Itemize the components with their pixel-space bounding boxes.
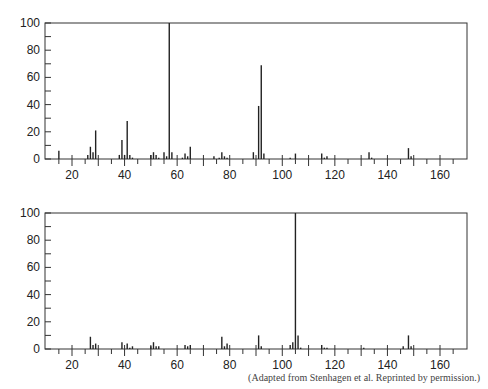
figure-credit: (Adapted from Stenhagen et al. Reprinted… [248, 372, 480, 383]
plot-frame [45, 23, 467, 159]
x-tick-label: 160 [430, 168, 450, 182]
x-tick-label: 60 [170, 168, 184, 182]
x-tick-label: 100 [272, 168, 292, 182]
y-tick-label: 80 [27, 43, 41, 57]
y-tick-label: 20 [27, 315, 41, 329]
plot-frame [45, 213, 467, 349]
y-tick-label: 100 [20, 16, 40, 30]
y-tick-label: 100 [20, 206, 40, 220]
x-tick-label: 20 [65, 358, 79, 372]
x-tick-label: 160 [430, 358, 450, 372]
top-spectrum-plot: 02040608010020406080100120140160 [20, 16, 467, 182]
x-tick-label: 40 [118, 358, 132, 372]
y-tick-label: 80 [27, 233, 41, 247]
x-tick-label: 120 [325, 168, 345, 182]
x-tick-label: 60 [170, 358, 184, 372]
x-tick-label: 20 [65, 168, 79, 182]
bottom-spectrum-plot: 02040608010020406080100120140160 [20, 206, 467, 372]
x-tick-label: 140 [377, 168, 397, 182]
y-tick-label: 0 [33, 342, 40, 356]
y-tick-label: 0 [33, 152, 40, 166]
x-tick-label: 80 [223, 358, 237, 372]
x-tick-label: 120 [325, 358, 345, 372]
y-tick-label: 60 [27, 260, 41, 274]
y-tick-label: 20 [27, 125, 41, 139]
x-tick-label: 140 [377, 358, 397, 372]
mass-spectra-figure: 02040608010020406080100120140160 0204060… [0, 0, 488, 389]
x-tick-label: 100 [272, 358, 292, 372]
x-tick-label: 80 [223, 168, 237, 182]
y-tick-label: 60 [27, 70, 41, 84]
x-tick-label: 40 [118, 168, 132, 182]
y-tick-label: 40 [27, 98, 41, 112]
y-tick-label: 40 [27, 288, 41, 302]
